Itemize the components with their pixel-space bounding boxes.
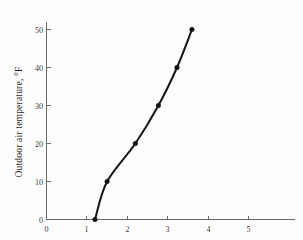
data-point (133, 141, 138, 146)
data-point (105, 179, 110, 184)
y-tick-label-10: 10 (35, 178, 43, 187)
data-point (93, 217, 98, 222)
y-tick-label-50: 50 (35, 26, 43, 35)
y-tick-label-30: 30 (35, 102, 43, 111)
y-tick-label-20: 20 (35, 140, 43, 149)
x-tick-label-4: 4 (207, 225, 211, 234)
y-tick-label-40: 40 (35, 64, 43, 73)
x-tick-label-3: 3 (166, 225, 170, 234)
x-tick-label-2: 2 (126, 225, 130, 234)
data-markers-group (93, 27, 195, 222)
chart-figure: 50 40 30 20 10 0 0 1 2 3 4 5 Outdoor air… (0, 0, 303, 240)
data-point (190, 27, 195, 32)
data-point (175, 65, 180, 70)
data-curve (95, 30, 192, 220)
x-tick-label-1: 1 (85, 225, 89, 234)
y-axis-title: Outdoor air temperature, °F (14, 66, 24, 177)
x-tick-label-5: 5 (247, 225, 251, 234)
line-chart: 50 40 30 20 10 0 0 1 2 3 4 5 Outdoor air… (0, 0, 303, 240)
x-tick-label-0: 0 (45, 225, 49, 234)
y-tick-label-0: 0 (39, 216, 43, 225)
data-point (156, 103, 161, 108)
